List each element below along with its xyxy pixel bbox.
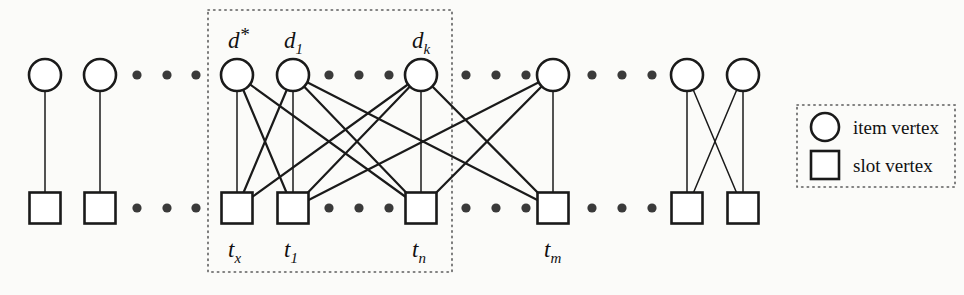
ellipsis-dot [521, 203, 530, 212]
slot-vertex-label: tx [228, 237, 241, 266]
slot-vertex-label: tm [544, 237, 561, 266]
item-vertex[interactable] [29, 59, 61, 91]
ellipsis-dot [617, 70, 626, 79]
legend-square-icon [811, 151, 839, 179]
ellipsis-layer [132, 70, 656, 212]
legend: item vertexslot vertex [797, 105, 955, 187]
diagram-canvas: d*d1dktxt1tntm item vertexslot vertex [0, 0, 964, 295]
ellipsis-dot [191, 203, 200, 212]
ellipsis-dot [461, 203, 470, 212]
item-vertex-label: d* [228, 24, 250, 53]
item-vertex[interactable] [537, 59, 569, 91]
ellipsis-dot [521, 70, 530, 79]
ellipsis-dot [617, 203, 626, 212]
slot-vertex[interactable] [222, 193, 253, 224]
item-vertex[interactable] [221, 59, 253, 91]
item-vertex-label: d1 [284, 28, 303, 57]
ellipsis-dot [647, 70, 656, 79]
slot-vertex[interactable] [30, 193, 61, 224]
ellipsis-dot [491, 203, 500, 212]
item-vertex-label: dk [412, 28, 431, 57]
slot-vertex[interactable] [538, 193, 569, 224]
item-vertex[interactable] [727, 59, 759, 91]
ellipsis-dot [191, 70, 200, 79]
vertex-label-layer: d*d1dktxt1tntm [228, 24, 561, 266]
vertex-layer [29, 59, 759, 224]
slot-vertex-label: tn [412, 237, 426, 266]
legend-item-label: item vertex [853, 117, 939, 138]
ellipsis-dot [384, 203, 393, 212]
slot-vertex-label: t1 [284, 237, 298, 266]
ellipsis-dot [491, 70, 500, 79]
item-vertex[interactable] [405, 59, 437, 91]
ellipsis-dot [162, 203, 171, 212]
item-vertex[interactable] [84, 59, 116, 91]
edge-layer [45, 75, 743, 208]
ellipsis-dot [587, 70, 596, 79]
slot-vertex[interactable] [406, 193, 437, 224]
ellipsis-dot [461, 70, 470, 79]
item-vertex[interactable] [671, 59, 703, 91]
legend-circle-icon [811, 113, 839, 141]
ellipsis-dot [587, 203, 596, 212]
ellipsis-dot [647, 203, 656, 212]
slot-vertex[interactable] [672, 193, 703, 224]
slot-vertex[interactable] [85, 193, 116, 224]
ellipsis-dot [324, 70, 333, 79]
ellipsis-dot [384, 70, 393, 79]
bipartite-graph-figure: d*d1dktxt1tntm item vertexslot vertex [0, 0, 964, 295]
slot-vertex[interactable] [728, 193, 759, 224]
ellipsis-dot [132, 70, 141, 79]
ellipsis-dot [162, 70, 171, 79]
legend-item-label: slot vertex [853, 155, 933, 176]
ellipsis-dot [354, 203, 363, 212]
ellipsis-dot [324, 203, 333, 212]
ellipsis-dot [354, 70, 363, 79]
slot-vertex[interactable] [278, 193, 309, 224]
item-vertex[interactable] [277, 59, 309, 91]
ellipsis-dot [132, 203, 141, 212]
